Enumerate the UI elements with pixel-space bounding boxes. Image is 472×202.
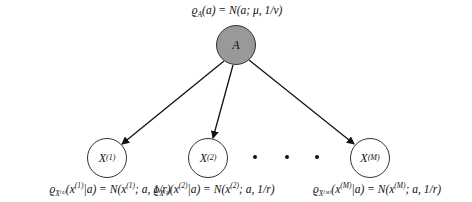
node-x2: X(2) (188, 138, 228, 178)
formula-part: (x (170, 183, 179, 195)
formula-sup: (2) (179, 181, 188, 190)
formula-part: ; a, 1/r) (239, 183, 274, 195)
formula-part: |a) = N(x (187, 183, 230, 195)
node-x1: X(1) (87, 138, 127, 178)
formula-part: ; a, 1/r) (406, 183, 441, 195)
formula-sup: (M) (394, 181, 405, 190)
root-prior-formula: ϱA(a) = N(a; μ, 1/ν) (192, 4, 283, 16)
node-x1-label: X (99, 151, 106, 166)
node-a: A (216, 25, 256, 65)
edge-a-to-x2 (213, 65, 233, 138)
bayesian-network-diagram: ϱA(a) = N(a; μ, 1/ν) A X(1) ϱX⁽¹⁾(x(1)|a… (0, 0, 472, 202)
edge-a-to-x1 (122, 61, 224, 144)
node-xm: X(M) (350, 138, 390, 178)
formula-sup: (2) (230, 181, 239, 190)
node-a-label: A (232, 38, 239, 53)
formula-part: |a) = N(x (83, 183, 126, 195)
edge-a-to-xm (249, 60, 354, 144)
ellipsis-dot (253, 155, 257, 159)
node-x2-label: X (200, 151, 207, 166)
x2-likelihood-formula: ϱX⁽²⁾(x(2)|a) = N(x(2); a, 1/r) (153, 183, 274, 195)
formula-sup: (1) (75, 181, 84, 190)
xm-likelihood-formula: ϱX⁽ᴹ⁾(x(M)|a) = N(x(M); a, 1/r) (313, 183, 441, 195)
rho-subscript: X⁽ᴹ⁾ (319, 189, 332, 198)
ellipsis-dot (285, 155, 289, 159)
ellipsis-dot (315, 155, 319, 159)
formula-sup: (M) (340, 181, 351, 190)
formula-part: (x (66, 183, 75, 195)
rho-subscript: X⁽²⁾ (159, 189, 170, 198)
formula-sup: (1) (126, 181, 135, 190)
node-xm-label: X (360, 151, 367, 166)
rho-subscript: X⁽¹⁾ (55, 189, 66, 198)
formula-part: |a) = N(x (351, 183, 394, 195)
formula-rest: (a) = N(a; μ, 1/ν) (202, 4, 282, 16)
formula-part: (x (331, 183, 340, 195)
x1-likelihood-formula: ϱX⁽¹⁾(x(1)|a) = N(x(1); a, 1/r) (49, 183, 170, 195)
